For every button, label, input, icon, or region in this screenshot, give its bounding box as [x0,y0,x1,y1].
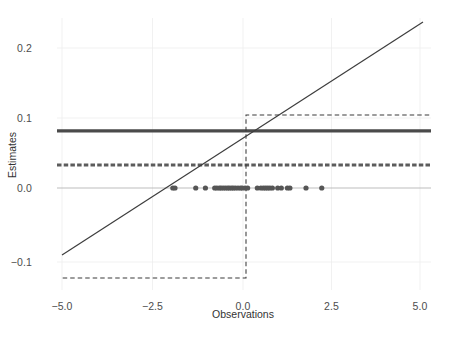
series-step-estimate [63,115,430,278]
scatter-point [203,185,208,190]
scatter-point [172,185,177,190]
y-axis-title: Estimates [6,132,18,178]
series-linear-estimate [62,22,423,255]
scatter-point [287,185,292,190]
scatter-point [319,185,324,190]
y-tick-label--0p1: −0.1 [11,256,32,268]
x-axis-title: Observations [212,308,274,320]
chart-figure: 0.2 0.1 0.0 −0.1 −5.0 −2.5 0.0 2.5 5.0 O… [0,0,451,337]
x-tick-label-5p0: 5.0 [413,300,428,312]
y-tick-label-0p1: 0.1 [17,112,32,124]
scatter-point [193,185,198,190]
scatter-point [270,185,275,190]
x-tick-label--2p5: −2.5 [142,300,163,312]
scatter-point [279,185,284,190]
y-tick-label-0p0: 0.0 [17,182,32,194]
y-tick-label-0p2: 0.2 [17,42,32,54]
scatter-point [245,185,250,190]
scatter-point [303,185,308,190]
x-tick-label--5p0: −5.0 [51,300,72,312]
x-tick-label-2p5: 2.5 [324,300,339,312]
grid-lines [57,18,431,290]
plot-canvas [0,0,451,337]
